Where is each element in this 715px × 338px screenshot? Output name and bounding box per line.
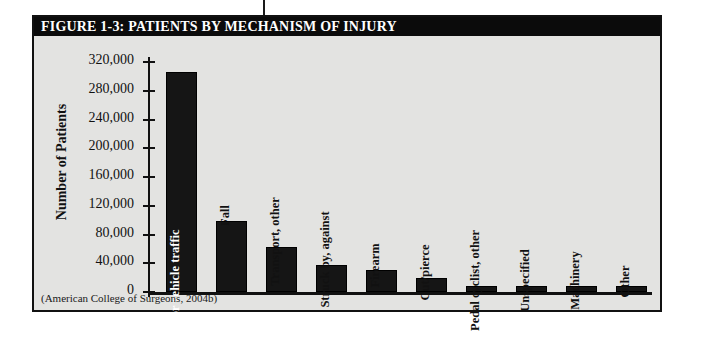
- bar-label-anchor: Transport, other: [266, 291, 297, 292]
- bar-category-label: Motor vehicle traffic: [169, 229, 182, 338]
- bar-label-anchor: Pedal cyclist, other: [466, 291, 497, 292]
- y-axis-tick-label: 320,000: [89, 52, 135, 68]
- bar-category-label: Fall: [219, 205, 232, 226]
- bar-category-label: Pedal cyclist, other: [469, 230, 482, 331]
- y-axis-tick-label: 280,000: [89, 81, 135, 97]
- bar-category-label: Transport, other: [269, 197, 282, 286]
- y-axis-tick-label: 40,000: [96, 253, 135, 269]
- y-axis-tick: 120,000: [143, 205, 155, 207]
- bar-label-anchor: Unspecified: [516, 291, 547, 292]
- figure-caption-text: FIGURE 1-3: PATIENTS BY MECHANISM OF INJ…: [41, 19, 397, 35]
- bar-category-label: Firearm: [369, 243, 382, 287]
- y-axis-tick: 40,000: [143, 262, 155, 264]
- plot-region: 320,000280,000240,000200,000160,000120,0…: [150, 62, 650, 292]
- y-axis-tick: 240,000: [143, 119, 155, 121]
- source-citation: (American College of Surgeons, 2004b): [41, 292, 217, 304]
- y-axis-tick: 80,000: [143, 234, 155, 236]
- y-axis-tick-label: 200,000: [89, 138, 135, 154]
- figure-panel: FIGURE 1-3: PATIENTS BY MECHANISM OF INJ…: [32, 15, 662, 312]
- y-axis-tick-label: 120,000: [89, 196, 135, 212]
- y-axis-tick: 200,000: [143, 147, 155, 149]
- bar-category-label: Struck by, against: [319, 212, 332, 308]
- y-axis-tick: 160,000: [143, 176, 155, 178]
- bar-label-anchor: Cut/pierce: [416, 291, 447, 292]
- y-axis-title: Number of Patients: [54, 92, 70, 232]
- registration-mark: [263, 0, 265, 15]
- chart-area: Number of Patients 320,000280,000240,000…: [34, 36, 660, 310]
- bar-category-label: Other: [619, 265, 632, 297]
- bar: [216, 221, 247, 292]
- bar-label-anchor: Firearm: [366, 291, 397, 292]
- bar-label-anchor: Machinery: [566, 291, 597, 292]
- bar-label-anchor: Struck by, against: [316, 291, 347, 292]
- bar-category-label: Unspecified: [519, 249, 532, 312]
- y-axis-tick: 320,000: [143, 61, 155, 63]
- bar-category-label: Cut/pierce: [419, 245, 432, 301]
- y-axis-tick: 280,000: [143, 90, 155, 92]
- y-axis-tick-label: 160,000: [89, 167, 135, 183]
- figure-caption-bar: FIGURE 1-3: PATIENTS BY MECHANISM OF INJ…: [34, 17, 660, 36]
- y-axis-tick-label: 240,000: [89, 110, 135, 126]
- bar-label-anchor: Fall: [216, 291, 247, 292]
- bar-label-anchor: Other: [616, 291, 647, 292]
- bar-category-label: Machinery: [569, 251, 582, 309]
- y-axis-tick-label: 80,000: [96, 225, 135, 241]
